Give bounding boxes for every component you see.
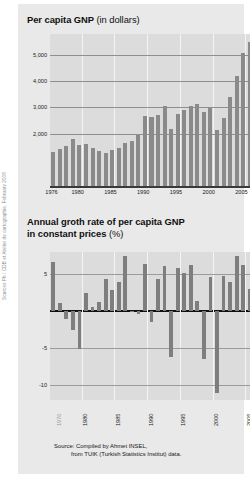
chart2-gridline-h [50, 274, 250, 275]
chart1-bar [202, 112, 206, 186]
chart1-y-tick-label: 2,000 [18, 131, 47, 137]
infographic-page: Sources Ph / CDB et Atelier de cartograp… [0, 0, 250, 480]
chart2-bar [222, 276, 226, 312]
chart1-gridline-h [50, 55, 250, 56]
chart2-bar [209, 277, 213, 311]
chart1-bar [117, 148, 121, 186]
chart2-bar [71, 311, 75, 330]
source-line-2: from TUIK (Turkish Statistics Institut) … [54, 450, 244, 458]
chart2-bar [202, 311, 206, 358]
chart1-bar [189, 106, 193, 186]
chart2-bar [143, 264, 147, 311]
chart2-bar [150, 311, 154, 322]
chart1-y-tick-label: 4,000 [18, 78, 47, 84]
chart-sheet: Per capita GNP (in dollars) 197619801985… [18, 4, 244, 474]
chart2-bar [228, 282, 232, 311]
credit-line: Sources Ph / CDB et Atelier de cartograp… [0, 150, 11, 300]
chart1-y-tick-label: 5,000 [18, 52, 47, 58]
chart1-bar [169, 129, 173, 186]
chart2-y-tick-label: -10 [18, 382, 47, 388]
chart2-x-tick-label: 1985 [115, 414, 121, 426]
chart1-bar [110, 150, 114, 186]
chart1-gridline-v [114, 34, 115, 186]
chart1-x-tick-label: 2005 [235, 189, 247, 195]
chart2-bar [235, 256, 239, 311]
chart2-x-tick-label: 1976 [56, 414, 62, 426]
chart1-x-tick-label: 1985 [104, 189, 116, 195]
chart2-bar [248, 289, 250, 311]
source-note: Source: Compiled by Ahmet INSEL, from TU… [54, 442, 244, 458]
chart1-x-tick-label: 1976 [45, 189, 57, 195]
chart2-bar [51, 262, 55, 311]
chart2-bar [110, 290, 114, 311]
chart1-gridline-v [245, 34, 246, 186]
chart1-bar [235, 76, 239, 186]
chart1-bar [222, 118, 226, 186]
chart1-bar [215, 130, 219, 186]
chart2-title-line1: Annual groth rate of per capita GNP [27, 216, 185, 227]
chart1-gridline-v [180, 34, 181, 186]
chart1-plot-area [50, 34, 250, 186]
chart1-bar [241, 53, 245, 186]
chart2-bar [182, 273, 186, 311]
chart2-bar [104, 279, 108, 311]
chart2-y-tick-label: -5 [18, 345, 47, 351]
chart2-bar [84, 293, 88, 311]
chart1-bar [77, 145, 81, 186]
chart2-title: Annual groth rate of per capita GNP in c… [27, 216, 237, 239]
chart2-x-tick-label: 1995 [180, 414, 186, 426]
chart2-bar [176, 268, 180, 312]
chart2-x-tick-labels: 19761980198519901995200020052006 [50, 402, 250, 432]
chart1-gridline-h [50, 81, 250, 82]
chart2-bar [97, 302, 101, 311]
chart1-bar [51, 152, 55, 186]
chart1-x-tick-label: 1990 [137, 189, 149, 195]
chart1-bar [97, 151, 101, 186]
chart1-bar [143, 116, 147, 186]
chart1-bar [91, 148, 95, 186]
chart2-bar [215, 311, 219, 392]
chart2-bar [195, 301, 199, 311]
chart1-gridline-h [50, 107, 250, 108]
chart1-bar [104, 153, 108, 186]
chart2-bar [64, 311, 68, 319]
chart1-bar [195, 104, 199, 186]
chart2-bar [117, 282, 121, 312]
chart2-bar [123, 256, 127, 312]
chart2-bar [241, 265, 245, 312]
chart1-bar [228, 97, 232, 186]
chart1-bar [182, 110, 186, 186]
chart2-bar [91, 307, 95, 311]
chart1-bar [149, 117, 153, 186]
chart1-bar [208, 108, 212, 186]
chart2-bar [78, 311, 82, 349]
chart1-bar [71, 139, 75, 186]
chart2-y-tick-label: 5 [18, 271, 47, 277]
chart2-title-unit: (%) [109, 228, 123, 239]
chart1-bar [64, 146, 68, 186]
source-line-1: Source: Compiled by Ahmet INSEL, [54, 443, 147, 449]
chart1-bar [248, 42, 250, 186]
chart2-bar [58, 303, 62, 311]
chart2-bar [189, 265, 193, 311]
chart2-x-tick-label: 1990 [148, 414, 154, 426]
chart2-bar [163, 266, 167, 311]
chart1-bar [163, 106, 167, 186]
chart1-bar [123, 143, 127, 186]
chart2-x-tick-label: 2000 [213, 414, 219, 426]
chart1-gridline-v [82, 34, 83, 186]
chart2-bar [169, 311, 173, 357]
chart1-gridline-v [147, 34, 148, 186]
chart1-bar [136, 135, 140, 186]
chart1-bar [176, 114, 180, 186]
chart2-x-tick-label: 1980 [82, 414, 88, 426]
chart1-x-tick-labels: 1976198019851990199520002005 [50, 189, 250, 199]
chart2-plot-area [50, 252, 250, 400]
chart2-bar [137, 311, 141, 314]
chart2-gridline-h [50, 385, 250, 386]
chart1-y-tick-label: 3,000 [18, 104, 47, 110]
chart1-title-unit: (in dollars) [96, 14, 139, 25]
chart1-x-tick-label: 2000 [202, 189, 214, 195]
chart1-x-axis [50, 186, 250, 188]
chart1-gridline-v [213, 34, 214, 186]
